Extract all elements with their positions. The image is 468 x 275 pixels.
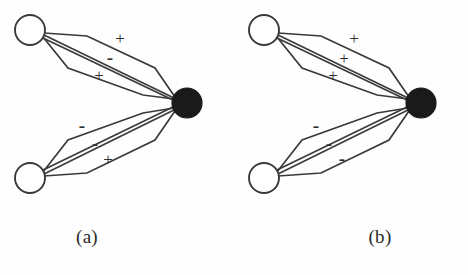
panel-b-sign-upper-1: + xyxy=(349,29,359,48)
panel-b-sign-lower-2: - xyxy=(326,133,332,154)
panel-b-canvas: + + + - - - xyxy=(234,0,468,220)
panel-b-upper-source-node xyxy=(249,15,279,45)
panel-a-sign-upper-1: + xyxy=(115,29,125,48)
figure-container: + - + - - + (a) xyxy=(0,0,468,275)
panel-a-lower-source-node xyxy=(15,163,45,193)
panel-a-sign-lower-1: - xyxy=(79,115,85,136)
panel-a-sign-upper-3: + xyxy=(94,66,104,85)
panel-b: + + + - - - (b) xyxy=(234,0,468,275)
panel-b-sign-lower-3: - xyxy=(339,148,345,169)
panel-b-caption: (b) xyxy=(234,226,468,248)
panel-b-sign-upper-3: + xyxy=(328,66,338,85)
panel-b-lower-source-node xyxy=(249,163,279,193)
panel-b-target-node xyxy=(406,88,436,118)
panel-a: + - + - - + (a) xyxy=(0,0,234,275)
panel-a-upper-source-node xyxy=(15,15,45,45)
panel-a-sign-upper-2: - xyxy=(107,47,113,68)
panel-b-sign-lower-1: - xyxy=(313,115,319,136)
panel-b-sign-upper-2: + xyxy=(339,49,349,68)
panel-a-canvas: + - + - - + xyxy=(0,0,234,220)
panel-b-upper-edge-inner xyxy=(277,38,407,100)
panel-a-sign-lower-3: + xyxy=(103,150,113,169)
panel-a-caption: (a) xyxy=(0,226,234,248)
panel-a-sign-lower-2: - xyxy=(92,133,98,154)
panel-a-target-node xyxy=(172,88,202,118)
